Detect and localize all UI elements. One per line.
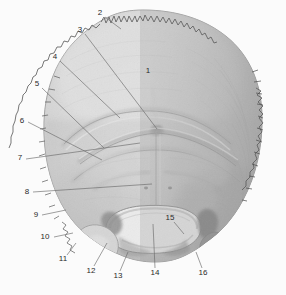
label-number-7: 7	[18, 154, 22, 162]
occipital-bone-illustration	[0, 0, 286, 295]
label-number-15: 15	[166, 214, 175, 222]
label-number-6: 6	[20, 117, 24, 125]
anatomical-figure-occipital-bone: 12345678910111213141516	[0, 0, 286, 295]
label-number-11: 11	[59, 255, 67, 263]
label-number-16: 16	[199, 269, 208, 277]
label-number-9: 9	[34, 211, 38, 219]
label-number-5: 5	[35, 80, 39, 88]
label-number-12: 12	[87, 267, 96, 275]
label-number-8: 8	[25, 188, 29, 196]
label-number-13: 13	[114, 272, 123, 280]
label-number-4: 4	[53, 53, 57, 61]
label-number-10: 10	[41, 233, 50, 241]
label-number-2: 2	[98, 9, 102, 17]
label-number-14: 14	[151, 269, 160, 277]
label-number-3: 3	[78, 26, 82, 34]
label-number-1: 1	[146, 67, 150, 75]
